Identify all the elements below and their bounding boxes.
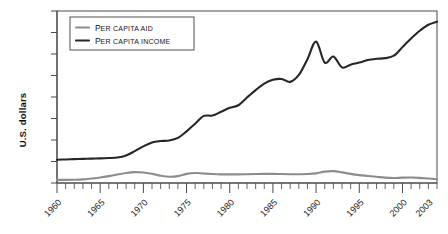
x-axis-tick-label: 2000 <box>388 197 409 218</box>
x-axis-tick-label: 1985 <box>258 197 279 218</box>
x-axis-tick-label: 1965 <box>85 197 106 218</box>
chart-container: U.S. dollars 196019651970197519801985199… <box>0 0 448 234</box>
x-axis-tick-label: 1995 <box>344 197 365 218</box>
legend-box <box>70 17 194 50</box>
x-axis-tick-label: 1960 <box>42 197 63 218</box>
x-axis-tick-labels: 1960196519701975198019851990199520002003 <box>42 197 435 218</box>
x-axis-tick-label: 1990 <box>301 197 322 218</box>
line-chart: U.S. dollars 196019651970197519801985199… <box>0 0 448 234</box>
x-axis-tick-label: 1980 <box>215 197 236 218</box>
legend[interactable]: P ER CAPITA AID P ER CAPITA INCOME <box>70 17 194 50</box>
y-axis-title: U.S. dollars <box>17 93 28 148</box>
x-axis-tick-label: 2003 <box>414 197 435 218</box>
series-line-per-capita-aid <box>57 171 437 180</box>
x-axis-ticks <box>57 183 437 193</box>
legend-label-aid-rest: ER CAPITA AID <box>101 25 154 32</box>
y-axis-title-group: U.S. dollars <box>17 93 28 148</box>
x-axis-tick-label: 1975 <box>172 197 193 218</box>
x-axis-tick-label: 1970 <box>129 197 150 218</box>
legend-label-income-rest: ER CAPITA INCOME <box>101 38 171 45</box>
y-axis-ticks <box>51 11 57 183</box>
